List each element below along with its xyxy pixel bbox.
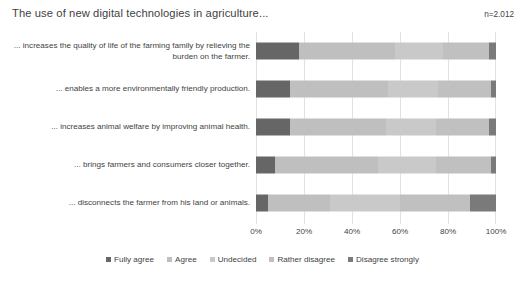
chart-header: The use of new digital technologies in a… <box>0 0 525 32</box>
bar-segment <box>256 157 275 174</box>
page-title: The use of new digital technologies in a… <box>12 7 269 19</box>
legend-item[interactable]: Disagree strongly <box>348 255 419 264</box>
legend-item[interactable]: Fully agree <box>106 255 154 264</box>
bar-segment <box>378 157 436 174</box>
bar-segment <box>299 43 395 60</box>
stacked-bar <box>256 43 496 60</box>
x-tick-label: 40% <box>344 227 360 236</box>
stacked-bar <box>256 195 496 212</box>
stacked-bar <box>256 157 496 174</box>
bar-segment <box>489 43 496 60</box>
category-label: ... brings farmers and consumers closer … <box>6 160 250 171</box>
legend-swatch-icon <box>167 257 172 262</box>
category-label: ... disconnects the farmer from his land… <box>6 198 250 209</box>
legend-label: Agree <box>175 255 197 264</box>
bar-segment <box>436 119 489 136</box>
legend-label: Disagree strongly <box>356 255 419 264</box>
bar-segment <box>275 157 378 174</box>
bar-segment <box>388 81 438 98</box>
legend-label: Rather disagree <box>277 255 335 264</box>
x-axis: 0%20%40%60%80%100% <box>256 224 496 240</box>
bar-segment <box>256 43 299 60</box>
legend-swatch-icon <box>348 257 353 262</box>
bar-segment <box>395 43 443 60</box>
x-tick-label: 0% <box>250 227 262 236</box>
bar-segment <box>470 195 496 212</box>
bar-segment <box>436 157 491 174</box>
bar-segment <box>491 157 496 174</box>
chart-container: The use of new digital technologies in a… <box>0 0 525 283</box>
chart-legend: Fully agreeAgreeUndecidedRather disagree… <box>0 255 525 264</box>
legend-swatch-icon <box>269 257 274 262</box>
stacked-bar <box>256 81 496 98</box>
bar-segment <box>290 81 388 98</box>
x-tick-label: 60% <box>392 227 408 236</box>
legend-label: Undecided <box>218 255 257 264</box>
sample-size-annotation: n=2.012 <box>484 10 514 19</box>
bar-segment <box>489 119 496 136</box>
x-tick-label: 100% <box>486 227 507 236</box>
bar-segment <box>256 195 268 212</box>
bar-segment <box>491 81 496 98</box>
legend-item[interactable]: Rather disagree <box>269 255 335 264</box>
chart-row: ... increases animal welfare by improvin… <box>0 108 525 146</box>
bar-segment <box>290 119 386 136</box>
bar-segment <box>438 81 491 98</box>
x-tick-label: 80% <box>440 227 456 236</box>
bar-segment <box>330 195 400 212</box>
legend-swatch-icon <box>210 257 215 262</box>
legend-label: Fully agree <box>114 255 154 264</box>
legend-item[interactable]: Undecided <box>210 255 257 264</box>
chart-row: ... enables a more environmentally frien… <box>0 70 525 108</box>
stacked-bar <box>256 119 496 136</box>
category-label: ... increases the quality of life of the… <box>6 41 250 62</box>
bar-segment <box>256 119 290 136</box>
bar-segment <box>268 195 330 212</box>
chart-row: ... brings farmers and consumers closer … <box>0 146 525 184</box>
bar-segment <box>400 195 470 212</box>
chart-row: ... disconnects the farmer from his land… <box>0 184 525 222</box>
chart-row: ... increases the quality of life of the… <box>0 32 525 70</box>
legend-item[interactable]: Agree <box>167 255 197 264</box>
bar-segment <box>443 43 489 60</box>
legend-swatch-icon <box>106 257 111 262</box>
category-label: ... increases animal welfare by improvin… <box>6 122 250 133</box>
bar-segment <box>386 119 436 136</box>
bar-segment <box>256 81 290 98</box>
category-label: ... enables a more environmentally frien… <box>6 84 250 95</box>
x-tick-label: 20% <box>296 227 312 236</box>
